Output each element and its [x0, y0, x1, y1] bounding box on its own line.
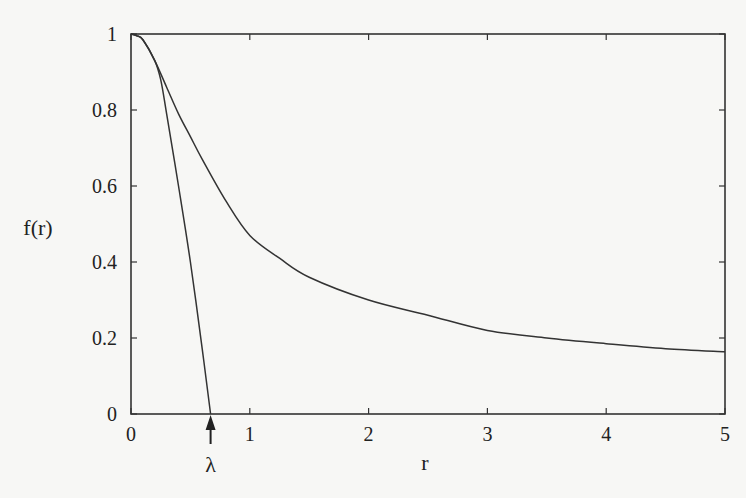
x-tick-label: 3 — [482, 423, 492, 445]
steep-curve — [131, 34, 211, 414]
y-tick-label: 0.2 — [92, 327, 117, 349]
x-tick-label: 5 — [720, 423, 730, 445]
chart: 012345 00.20.40.60.81 λ r f(r) — [0, 0, 746, 498]
y-axis-label: f(r) — [23, 215, 52, 240]
x-axis-label: r — [421, 450, 429, 475]
y-axis-ticks: 00.20.40.60.81 — [92, 23, 725, 425]
x-axis-ticks: 012345 — [126, 34, 730, 445]
y-tick-label: 0.8 — [92, 99, 117, 121]
x-tick-label: 2 — [364, 423, 374, 445]
y-tick-label: 0.6 — [92, 175, 117, 197]
y-tick-label: 1 — [107, 23, 117, 45]
y-tick-label: 0.4 — [92, 251, 117, 273]
x-tick-label: 0 — [126, 423, 136, 445]
x-tick-label: 4 — [601, 423, 611, 445]
slow-decay-curve — [131, 34, 725, 352]
lambda-annotation: λ — [205, 415, 216, 477]
y-tick-label: 0 — [107, 403, 117, 425]
x-tick-label: 1 — [245, 423, 255, 445]
series-lines — [131, 34, 725, 414]
plot-frame — [131, 34, 725, 414]
lambda-label: λ — [205, 452, 216, 477]
